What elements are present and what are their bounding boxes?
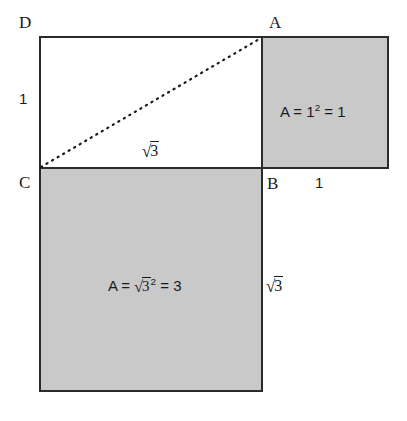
radical-group: √3 [266,276,283,295]
area-formula-prefix: A = [108,277,134,294]
vertex-label-B: B [267,175,278,192]
vertex-label-A: A [269,14,281,31]
radical-group: √3 [134,277,150,295]
dimension-label-bottom-right: 1 [315,175,323,190]
dimension-label-right-side: √3 [266,276,283,295]
radicand-value: 3 [274,276,283,294]
vertex-label-D: D [19,14,31,31]
radical-group: √3 [142,141,159,160]
dimension-label-left-side: 1 [19,91,27,106]
radicand-value: 3 [142,277,151,294]
area-formula-root-three-square: A = √32 = 3 [108,277,182,295]
area-formula-suffix: = 3 [156,277,181,294]
vertex-label-C: C [19,174,30,191]
area-formula-suffix: = 1 [320,103,345,120]
dimension-label-top-middle: √3 [142,141,159,160]
area-formula-unit-square: A = 12 = 1 [280,104,346,119]
radicand-value: 3 [150,141,159,159]
area-formula-prefix: A = 1 [280,103,315,120]
diagram-canvas: D A C B 1 √3 1 √3 A = 12 = 1 A = √32 = 3 [0,0,407,421]
